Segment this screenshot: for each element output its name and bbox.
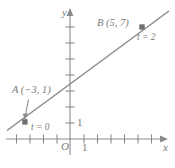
point-b-param-label: t = 2 — [137, 33, 156, 43]
y-axis-arrowhead — [67, 8, 74, 16]
point-b-label: B (5, 7) — [97, 18, 129, 29]
origin-label: O — [61, 141, 69, 152]
x-unit-label: 1 — [82, 142, 88, 153]
point-a-param-label: t = 0 — [31, 123, 50, 133]
point-a-label: A (−3, 1) — [12, 85, 51, 96]
annotation-arrow-a — [23, 100, 29, 120]
y-axis-label: y — [62, 7, 67, 18]
annotation-arrow-a-shaft — [26, 100, 29, 116]
y-unit-label: 1 — [77, 117, 83, 128]
x-axis-label: x — [163, 142, 168, 153]
point-marker-a — [22, 119, 27, 124]
point-marker-b — [139, 24, 144, 29]
graph-figure: y x O 1 1 A (−3, 1) t = 0 B (5, 7) t = 2 — [0, 0, 175, 168]
